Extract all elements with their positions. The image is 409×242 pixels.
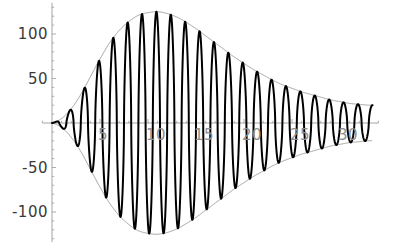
x-axis-tick-label: 20 bbox=[242, 126, 262, 144]
x-axis-tick-label: 10 bbox=[146, 126, 166, 144]
x-axis-tick-label: 5 bbox=[98, 126, 108, 144]
y-axis-tick-label: 50 bbox=[28, 70, 48, 88]
oscillation-plot: 10050-50-10051015202530 bbox=[0, 0, 409, 242]
plot-canvas bbox=[0, 0, 409, 242]
y-axis-tick-label: 100 bbox=[18, 25, 48, 43]
x-axis-tick-label: 15 bbox=[194, 126, 214, 144]
x-axis-tick-label: 25 bbox=[290, 126, 310, 144]
y-axis-tick-label: -100 bbox=[12, 203, 48, 221]
x-axis-tick-label: 30 bbox=[338, 126, 358, 144]
y-axis-tick-label: -50 bbox=[22, 159, 48, 177]
